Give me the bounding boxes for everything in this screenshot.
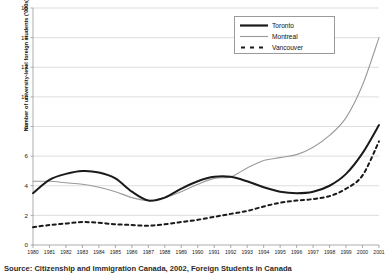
legend-swatch-vancouver <box>239 43 269 52</box>
svg-text:1988: 1988 <box>159 249 170 255</box>
legend-item-montreal: Montreal <box>239 31 330 42</box>
legend-label-montreal: Montreal <box>272 32 298 41</box>
legend-label-vancouver: Vancouver <box>272 43 303 52</box>
svg-text:2: 2 <box>25 212 29 219</box>
svg-text:1998: 1998 <box>324 249 335 255</box>
svg-text:1995: 1995 <box>274 249 285 255</box>
svg-text:1980: 1980 <box>27 249 38 255</box>
data-series-lines <box>33 38 379 228</box>
x-axis-tick-labels: 1980198119821983198419851986198719881989… <box>27 249 384 255</box>
svg-text:6: 6 <box>25 152 29 159</box>
chart-legend: Toronto Montreal Vancouver <box>234 16 335 54</box>
legend-swatch-toronto <box>239 21 269 30</box>
svg-text:1986: 1986 <box>126 249 137 255</box>
x-axis-ticks <box>33 245 379 248</box>
series-line-montreal <box>33 38 379 201</box>
svg-text:2000: 2000 <box>357 249 368 255</box>
svg-text:1993: 1993 <box>242 249 253 255</box>
svg-text:1989: 1989 <box>176 249 187 255</box>
svg-text:2001: 2001 <box>373 249 384 255</box>
chart-container: 0246810121416 19801981198219831984198519… <box>0 0 390 273</box>
plot-area: 0246810121416 19801981198219831984198519… <box>0 0 390 273</box>
svg-text:1997: 1997 <box>307 249 318 255</box>
svg-text:1987: 1987 <box>143 249 154 255</box>
svg-text:0: 0 <box>25 241 29 248</box>
svg-text:1985: 1985 <box>110 249 121 255</box>
svg-text:1983: 1983 <box>77 249 88 255</box>
svg-text:1994: 1994 <box>258 249 269 255</box>
svg-text:1990: 1990 <box>192 249 203 255</box>
svg-text:1982: 1982 <box>60 249 71 255</box>
svg-text:1991: 1991 <box>209 249 220 255</box>
svg-text:1992: 1992 <box>225 249 236 255</box>
source-caption: Source: Citizenship and Immigration Cana… <box>4 264 388 273</box>
svg-text:1996: 1996 <box>291 249 302 255</box>
legend-swatch-montreal <box>239 32 269 41</box>
svg-text:4: 4 <box>25 182 29 189</box>
svg-text:1981: 1981 <box>44 249 55 255</box>
y-axis-title: Number of university-level foreign stude… <box>23 0 29 145</box>
legend-label-toronto: Toronto <box>272 21 294 30</box>
legend-item-toronto: Toronto <box>239 20 330 31</box>
svg-text:1999: 1999 <box>340 249 351 255</box>
series-line-toronto <box>33 125 379 201</box>
svg-text:1984: 1984 <box>93 249 104 255</box>
legend-item-vancouver: Vancouver <box>239 42 330 53</box>
